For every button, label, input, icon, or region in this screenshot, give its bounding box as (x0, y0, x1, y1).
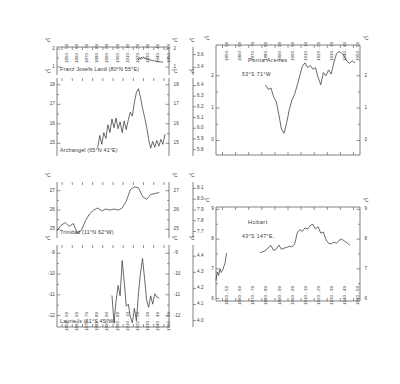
decade-label-bottom-right: 1950 - 59 (355, 286, 360, 305)
decade-label-bottom-right: 1880 - 89 (263, 286, 268, 305)
y-tick-label-right: 17 (174, 101, 179, 106)
right-unit-label: °C (363, 36, 368, 41)
y-tick-label-left: -10 (35, 271, 55, 276)
y-tick-label-left: 9 (194, 206, 214, 211)
far-right-tick-label: 6.1 (197, 115, 204, 120)
decade-label-top-left: 1910 - 19 (125, 44, 130, 63)
y-tick-label-left: 2 (35, 46, 55, 51)
y-tick-label-right: -10 (174, 271, 181, 276)
y-tick-label-left: 8 (194, 236, 214, 241)
station-caption: Hobart (248, 219, 268, 225)
station-coordinates: 53°S 71°W (242, 71, 271, 77)
decade-label-top-left: 1870 - 79 (84, 44, 89, 63)
right-unit-label: °C (363, 198, 368, 203)
decade-label-top-left: 1940 - 49 (155, 44, 160, 63)
y-tick-label-right: 7 (365, 266, 368, 271)
decade-label-top-right: 1940 - 49 (342, 42, 347, 61)
y-tick-label-right: 8 (365, 236, 368, 241)
far-right-tick-label: 3.4 (197, 64, 204, 69)
decade-label-top-right: 1920 - 29 (316, 42, 321, 61)
decade-label-bottom-right: 1860 - 69 (237, 286, 242, 305)
left-unit-label: °C (204, 36, 209, 41)
decade-label-bottom-right: 1890 - 99 (277, 286, 282, 305)
decade-label-bottom-right: 1870 - 79 (250, 286, 255, 305)
data-trace (57, 187, 159, 233)
decade-label-bottom-right: 1910 - 19 (303, 286, 308, 305)
far-right-tick-label: 4.0 (197, 318, 204, 323)
y-tick-label-left: -11 (35, 292, 55, 297)
station-caption: Trinidad (11°N 62°W) (60, 229, 114, 235)
y-tick-label-left: 1 (194, 105, 214, 110)
y-tick-label-right: 1 (365, 105, 368, 110)
far-right-tick-label: 5.8 (197, 147, 204, 152)
far-right-tick-label: 6.0 (197, 125, 204, 130)
climate-station-temperature-figure: 11223.43.6°C°C°CFranz Josefs Land (80°N … (0, 0, 400, 384)
decade-label-bottom-right: 1920 - 29 (316, 286, 321, 305)
decade-label-top-left: 1950 - 59 (166, 44, 171, 63)
decade-label-bottom-right: 1850 - 59 (224, 286, 229, 305)
decade-label-top-right: 1950 - 59 (355, 42, 360, 61)
far-right-tick-label: 4.2 (197, 285, 204, 290)
y-tick-label-right: 25 (174, 226, 179, 231)
decade-label-top-right: 1880 - 89 (263, 42, 268, 61)
far-right-tick-label: 7.8 (197, 218, 204, 223)
decade-label-bottom-left: 1850 - 59 (64, 312, 69, 331)
y-tick-label-right: -12 (174, 313, 181, 318)
left-unit-label: °C (45, 173, 50, 178)
right-unit-label: °C (172, 69, 177, 74)
y-tick-label-right: 2 (365, 73, 368, 78)
right-unit-label: °C (172, 173, 177, 178)
station-coordinates: 43°S 147°E. (242, 233, 275, 239)
y-tick-label-left: 26 (35, 207, 55, 212)
decade-label-bottom-left: 1870 - 79 (84, 312, 89, 331)
right-unit-label: °C (172, 38, 177, 43)
decade-label-top-right: 1860 - 69 (237, 42, 242, 61)
y-tick-label-left: 2 (194, 73, 214, 78)
y-tick-label-left: 25 (35, 226, 55, 231)
left-unit-label: °C (45, 38, 50, 43)
decade-label-top-left: 1930 - 39 (145, 44, 150, 63)
left-unit-label: °C (204, 198, 209, 203)
decade-label-bottom-right: 1930 - 39 (329, 286, 334, 305)
decade-label-bottom-left: 1880 - 89 (94, 312, 99, 331)
left-unit-label: °C (45, 236, 50, 241)
y-tick-label-left: 6 (194, 296, 214, 301)
right-unit-label: °C (172, 236, 177, 241)
y-tick-label-left: 0 (194, 137, 214, 142)
decade-label-bottom-left: 1900 - 09 (115, 312, 120, 331)
y-tick-label-left: 17 (35, 101, 55, 106)
y-tick-label-left: -9 (35, 250, 55, 255)
y-tick-label-left: 16 (35, 121, 55, 126)
far-right-tick-label: 3.6 (197, 52, 204, 57)
decade-label-top-right: 1890 - 99 (277, 42, 282, 61)
decade-label-top-right: 1900 - 09 (290, 42, 295, 61)
far-right-tick-label: 7.7 (197, 229, 204, 234)
far-right-tick-label: 4.1 (197, 301, 204, 306)
y-tick-label-left: 7 (194, 266, 214, 271)
decade-label-top-left: 1850 - 59 (64, 44, 69, 63)
station-caption: Archangel (65°N 41°E) (60, 147, 118, 153)
y-tick-label-right: 2 (174, 46, 177, 51)
decade-label-bottom-left: 1950 - 59 (166, 312, 171, 331)
decade-label-bottom-left: 1910 - 19 (125, 312, 130, 331)
y-tick-label-right: 18 (174, 82, 179, 87)
plot-surface (0, 0, 400, 384)
far-right-tick-label: 6.3 (197, 93, 204, 98)
left-unit-label: °C (45, 69, 50, 74)
y-tick-label-left: 15 (35, 140, 55, 145)
y-tick-label-right: 6 (365, 296, 368, 301)
data-trace (98, 89, 165, 148)
decade-label-bottom-right: 1900 - 09 (290, 286, 295, 305)
y-tick-label-right: 27 (174, 188, 179, 193)
far-right-tick-label: 8.0 (197, 196, 204, 201)
far-right-unit-label: °C (189, 173, 194, 178)
decade-label-bottom-left: 1940 - 49 (155, 312, 160, 331)
y-tick-label-right: 9 (365, 206, 368, 211)
decade-label-top-left: 1880 - 89 (94, 44, 99, 63)
far-right-tick-label: 4.4 (197, 253, 204, 258)
y-tick-label-right: -9 (174, 250, 178, 255)
decade-label-top-right: 1910 - 19 (303, 42, 308, 61)
data-trace (266, 51, 355, 133)
far-right-unit-label: °C (189, 38, 194, 43)
station-caption: Franz Josefs Land (80°N 55°E) (60, 66, 139, 72)
